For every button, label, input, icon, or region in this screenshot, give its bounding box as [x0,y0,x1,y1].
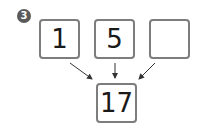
arrow-3 [139,63,155,79]
arrow-1 [70,63,92,79]
result-box: 17 [96,83,137,123]
